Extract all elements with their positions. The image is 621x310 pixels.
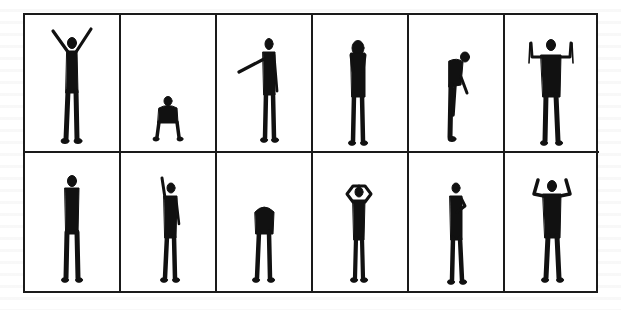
gesture-cell-1 bbox=[25, 15, 121, 153]
silhouette-hand-on-chest-icon bbox=[409, 154, 503, 290]
silhouette-hands-covering-face-icon bbox=[313, 15, 407, 151]
gesture-cell-2 bbox=[121, 15, 217, 153]
gesture-cell-3 bbox=[217, 15, 313, 153]
silhouette-one-arm-raised-icon bbox=[121, 154, 215, 290]
gesture-cell-6 bbox=[505, 15, 599, 153]
gesture-cell-8 bbox=[121, 153, 217, 291]
silhouette-hands-on-head-icon bbox=[313, 154, 407, 290]
gesture-cell-11 bbox=[409, 153, 505, 291]
silhouette-arms-raised-v-icon bbox=[25, 15, 119, 151]
silhouette-crouching-icon bbox=[121, 15, 215, 151]
gesture-figure-grid bbox=[23, 13, 598, 293]
gesture-cell-4 bbox=[313, 15, 409, 153]
silhouette-bending-forward-icon bbox=[409, 15, 503, 151]
silhouette-arms-flexed-up-icon bbox=[505, 154, 599, 290]
silhouette-head-bowed-icon bbox=[217, 154, 311, 290]
silhouette-pointing-left-icon bbox=[217, 15, 311, 151]
gesture-cell-7 bbox=[25, 153, 121, 291]
silhouette-arms-up-holding-objects-icon bbox=[505, 15, 599, 151]
gesture-cell-10 bbox=[313, 153, 409, 291]
gesture-cell-12 bbox=[505, 153, 599, 291]
gesture-cell-5 bbox=[409, 15, 505, 153]
gesture-cell-9 bbox=[217, 153, 313, 291]
silhouette-standing-arms-down-icon bbox=[25, 154, 119, 290]
